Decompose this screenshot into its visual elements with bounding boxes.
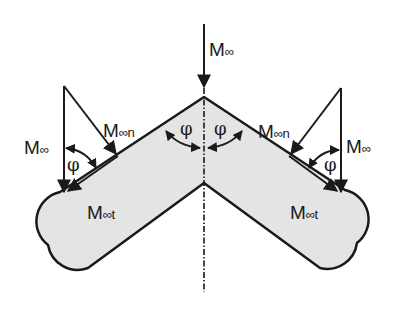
angle-phi-right-triangle: φ: [324, 156, 337, 174]
chevron-diagram: [0, 0, 397, 311]
angle-phi-apex-left: φ: [180, 120, 193, 138]
label-sub: ∞t: [103, 207, 115, 222]
label-sub: ∞: [225, 44, 234, 59]
label-main: M: [24, 137, 40, 158]
label-main: M: [258, 121, 274, 142]
label-main: M: [346, 136, 362, 157]
right-normal-vector: [291, 88, 341, 154]
label-freestream-top: M∞: [209, 40, 234, 59]
angle-phi-left-triangle: φ: [67, 156, 80, 174]
label-sub: ∞t: [306, 207, 318, 222]
label-normal-left: M∞n: [103, 121, 134, 140]
label-sub: ∞: [40, 142, 49, 157]
label-main: M: [103, 120, 119, 141]
label-freestream-left: M∞: [24, 138, 49, 157]
label-sub: ∞: [362, 141, 371, 156]
label-sub: ∞n: [274, 126, 290, 141]
label-main: M: [209, 39, 225, 60]
label-tangential-left: M∞t: [87, 203, 115, 222]
label-tangential-right: M∞t: [290, 203, 318, 222]
label-freestream-right: M∞: [346, 137, 371, 156]
label-normal-right: M∞n: [258, 122, 289, 141]
chevron-body: [36, 97, 368, 270]
angle-phi-apex-right: φ: [214, 120, 227, 138]
label-main: M: [87, 202, 103, 223]
label-main: M: [290, 202, 306, 223]
label-sub: ∞n: [119, 125, 135, 140]
